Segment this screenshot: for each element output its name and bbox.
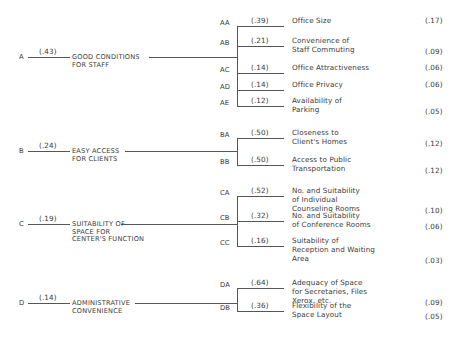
group-to-bracket-line bbox=[125, 151, 237, 152]
criterion-branch-line bbox=[237, 138, 284, 139]
criterion-code: BB bbox=[220, 158, 230, 166]
criterion-code: CC bbox=[220, 239, 230, 247]
criterion-global-weight: (.05) bbox=[425, 313, 443, 321]
criterion-code: AB bbox=[220, 39, 230, 47]
criterion-branch-line bbox=[237, 246, 284, 247]
criterion-global-weight: (.12) bbox=[425, 140, 443, 148]
criterion-label: Staff Commuting bbox=[292, 46, 355, 54]
criterion-global-weight: (.09) bbox=[425, 48, 443, 56]
criterion-local-weight: (.21) bbox=[251, 37, 269, 45]
criterion-global-weight: (.05) bbox=[425, 108, 443, 116]
criterion-local-weight: (.52) bbox=[251, 187, 269, 195]
criterion-code: CB bbox=[220, 214, 230, 222]
criterion-local-weight: (.32) bbox=[251, 212, 269, 220]
criterion-branch-line bbox=[237, 26, 284, 27]
group-id: A bbox=[19, 53, 24, 61]
criterion-branch-line bbox=[237, 196, 284, 197]
criterion-branch-line bbox=[237, 46, 284, 47]
criterion-local-weight: (.36) bbox=[251, 302, 269, 310]
group-to-bracket-line bbox=[149, 57, 237, 58]
criterion-label: Transportation bbox=[292, 165, 345, 173]
criterion-label: Client's Homes bbox=[292, 138, 347, 146]
criterion-code: AD bbox=[220, 83, 230, 91]
criterion-global-weight: (.06) bbox=[425, 81, 443, 89]
group-label: FOR STAFF bbox=[72, 61, 109, 69]
group-to-bracket-line bbox=[121, 224, 237, 225]
criterion-branch-line bbox=[237, 165, 284, 166]
bracket-vertical-line bbox=[237, 288, 238, 311]
group-id: D bbox=[19, 299, 24, 307]
criterion-code: DB bbox=[220, 304, 230, 312]
criterion-local-weight: (.14) bbox=[251, 64, 269, 72]
criterion-branch-line bbox=[237, 90, 284, 91]
criterion-branch-line bbox=[237, 311, 284, 312]
criterion-label: Space Layout bbox=[292, 311, 342, 319]
criterion-code: AC bbox=[220, 66, 229, 74]
group-connector-line bbox=[28, 224, 70, 225]
criterion-global-weight: (.06) bbox=[425, 64, 443, 72]
criterion-branch-line bbox=[237, 106, 284, 107]
criterion-global-weight: (.10) bbox=[425, 207, 443, 215]
group-weight: (.24) bbox=[39, 142, 57, 150]
criterion-branch-line bbox=[237, 288, 284, 289]
criterion-label: Parking bbox=[292, 106, 319, 114]
criterion-code: AE bbox=[220, 99, 229, 107]
group-weight: (.14) bbox=[39, 294, 57, 302]
criterion-local-weight: (.14) bbox=[251, 81, 269, 89]
criterion-global-weight: (.09) bbox=[425, 299, 443, 307]
criterion-global-weight: (.03) bbox=[425, 257, 443, 265]
group-id: C bbox=[19, 220, 24, 228]
criterion-code: CA bbox=[220, 189, 230, 197]
criterion-global-weight: (.17) bbox=[425, 17, 443, 25]
group-id: B bbox=[19, 147, 24, 155]
group-label: FOR CLIENTS bbox=[72, 155, 117, 163]
group-connector-line bbox=[28, 303, 70, 304]
criterion-local-weight: (.12) bbox=[251, 97, 269, 105]
criterion-local-weight: (.16) bbox=[251, 237, 269, 245]
bracket-vertical-line bbox=[237, 26, 238, 106]
criterion-local-weight: (.50) bbox=[251, 129, 269, 137]
criterion-global-weight: (.12) bbox=[425, 167, 443, 175]
criterion-label: Office Attractiveness bbox=[292, 64, 369, 72]
group-label: CONVENIENCE bbox=[72, 307, 122, 315]
criterion-branch-line bbox=[237, 73, 284, 74]
group-connector-line bbox=[28, 57, 70, 58]
criterion-local-weight: (.39) bbox=[251, 17, 269, 25]
bracket-vertical-line bbox=[237, 138, 238, 165]
group-connector-line bbox=[28, 151, 70, 152]
criterion-code: BA bbox=[220, 131, 230, 139]
criterion-label: of Conference Rooms bbox=[292, 221, 371, 229]
criterion-code: DA bbox=[220, 281, 230, 289]
criterion-label: Office Privacy bbox=[292, 81, 343, 89]
group-weight: (.19) bbox=[39, 215, 57, 223]
criterion-local-weight: (.64) bbox=[251, 279, 269, 287]
group-weight: (.43) bbox=[39, 48, 57, 56]
criterion-global-weight: (.06) bbox=[425, 223, 443, 231]
group-label: CENTER'S FUNCTION bbox=[72, 235, 144, 243]
criterion-label: Office Size bbox=[292, 17, 331, 25]
criterion-branch-line bbox=[237, 221, 284, 222]
criterion-label: Area bbox=[292, 255, 309, 263]
criterion-local-weight: (.50) bbox=[251, 156, 269, 164]
criterion-code: AA bbox=[220, 19, 230, 27]
